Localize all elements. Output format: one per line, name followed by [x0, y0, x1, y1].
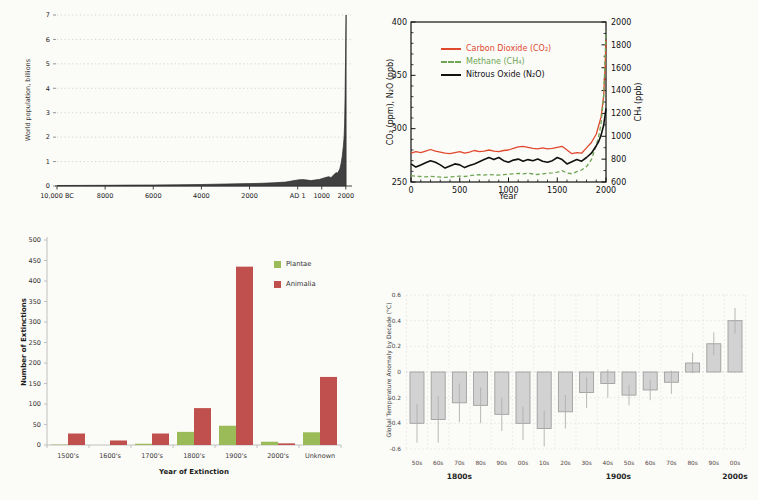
temperature-x-labels: 50s60s70s80s90s00s10s20s30s40s50s60s70s8…: [412, 460, 748, 481]
svg-text:00s: 00s: [730, 460, 740, 466]
svg-text:1000: 1000: [611, 132, 631, 141]
svg-text:800: 800: [611, 155, 626, 164]
population-axes: 0123456710,000 BC8000600040002000AD 1100…: [40, 11, 354, 200]
svg-text:400: 400: [29, 277, 41, 285]
temperature-y-axis-label: Global Temperature Anomaly by Decade (°C…: [385, 302, 392, 437]
svg-text:5: 5: [46, 60, 50, 68]
svg-text:1600: 1600: [611, 64, 631, 73]
svg-text:2000: 2000: [338, 192, 355, 200]
svg-text:2000's: 2000's: [267, 452, 289, 460]
svg-text:70s: 70s: [454, 460, 464, 466]
svg-text:0: 0: [37, 441, 41, 449]
svg-text:1800's: 1800's: [183, 452, 205, 460]
svg-text:8000: 8000: [97, 192, 114, 200]
svg-text:0: 0: [46, 182, 50, 190]
plantae-bar: [219, 426, 236, 445]
animalia-bar: [236, 267, 253, 445]
svg-text:2000: 2000: [596, 186, 616, 195]
svg-text:60s: 60s: [433, 460, 443, 466]
population-y-axis-label: World population, billions: [24, 59, 32, 141]
plantae-bar: [303, 432, 320, 445]
svg-text:300: 300: [29, 318, 41, 326]
svg-text:10s: 10s: [539, 460, 549, 466]
svg-text:0.4: 0.4: [392, 318, 402, 324]
svg-text:0: 0: [408, 186, 413, 195]
animalia-bar: [194, 408, 211, 445]
legend-item-animalia: Animalia: [274, 278, 316, 291]
legend-item-n2o: Nitrous Oxide (N₂O): [441, 68, 551, 81]
extinctions-y-axis-label: Number of Extinctions: [20, 298, 28, 386]
animalia-bar: [152, 434, 169, 445]
svg-text:2000s: 2000s: [722, 472, 748, 481]
greenhouse-left-y-axis-label: CO₂ (ppm), N₂O (ppb): [386, 59, 395, 145]
svg-text:2000: 2000: [241, 192, 258, 200]
greenhouse-right-y-axis-label: CH₄ (ppb): [634, 83, 643, 122]
svg-text:1500's: 1500's: [57, 452, 79, 460]
svg-text:250: 250: [392, 178, 407, 187]
figure-page: 0123456710,000 BC8000600040002000AD 1100…: [0, 0, 758, 500]
n2o-line-swatch: [441, 74, 461, 76]
legend-item-methane: Methane (CH₄): [441, 55, 551, 68]
svg-text:1800s: 1800s: [447, 472, 473, 481]
svg-text:3: 3: [46, 109, 50, 117]
legend-label-plantae: Plantae: [286, 261, 311, 268]
svg-text:4000: 4000: [193, 192, 210, 200]
svg-text:50s: 50s: [624, 460, 634, 466]
plantae-bar: [177, 432, 194, 445]
svg-text:7: 7: [46, 11, 50, 19]
svg-text:500: 500: [452, 186, 467, 195]
svg-text:2000: 2000: [611, 18, 631, 27]
temperature-anomaly-chart: 0.60.40.20-0.2-0.4-0.650s60s70s80s90s00s…: [379, 222, 758, 500]
svg-text:250: 250: [29, 339, 41, 347]
greenhouse-legend: Carbon Dioxide (CO₂) Methane (CH₄) Nitro…: [441, 42, 551, 81]
svg-text:20s: 20s: [560, 460, 570, 466]
svg-text:90s: 90s: [709, 460, 719, 466]
svg-text:50s: 50s: [412, 460, 422, 466]
svg-text:10,000 BC: 10,000 BC: [40, 192, 74, 200]
svg-text:1200: 1200: [611, 109, 631, 118]
svg-text:1: 1: [46, 158, 50, 166]
series-line: [411, 108, 606, 168]
greenhouse-gases-chart: 2503003504006008001000120014001600180020…: [379, 0, 758, 222]
world-population-plot: 0123456710,000 BC8000600040002000AD 1100…: [0, 0, 379, 222]
legend-label-co2: Carbon Dioxide (CO₂): [466, 45, 551, 53]
plantae-bar: [261, 442, 278, 445]
svg-text:6000: 6000: [145, 192, 162, 200]
temperature-anomaly-plot: 0.60.40.20-0.2-0.4-0.650s60s70s80s90s00s…: [379, 222, 758, 500]
extinctions-x-axis-label: Year of Extinction: [134, 468, 254, 476]
legend-label-animalia: Animalia: [286, 281, 316, 288]
animalia-bar: [110, 440, 127, 445]
plantae-swatch: [274, 261, 281, 268]
svg-text:6: 6: [46, 36, 50, 44]
svg-text:0: 0: [397, 369, 401, 375]
co2-line-swatch: [441, 48, 461, 50]
methane-line-swatch: [441, 61, 461, 63]
svg-text:1600's: 1600's: [99, 452, 121, 460]
svg-text:400: 400: [392, 18, 407, 27]
animalia-swatch: [274, 281, 281, 288]
world-population-chart: 0123456710,000 BC8000600040002000AD 1100…: [0, 0, 379, 222]
plantae-bar: [135, 444, 152, 445]
svg-text:350: 350: [29, 298, 41, 306]
greenhouse-gases-plot: 2503003504006008001000120014001600180020…: [379, 0, 758, 222]
svg-text:80s: 80s: [687, 460, 697, 466]
svg-text:1900's: 1900's: [225, 452, 247, 460]
svg-text:0.2: 0.2: [392, 343, 402, 349]
svg-text:70s: 70s: [666, 460, 676, 466]
svg-text:AD 1: AD 1: [290, 192, 306, 200]
extinctions-plot: 0501001502002503003504004505001500's1600…: [0, 222, 379, 500]
extinctions-legend: Plantae Animalia: [274, 258, 316, 291]
svg-text:80s: 80s: [475, 460, 485, 466]
svg-text:1900s: 1900s: [606, 472, 632, 481]
animalia-bar: [68, 434, 85, 445]
svg-text:500: 500: [29, 236, 41, 244]
svg-text:1500: 1500: [547, 186, 567, 195]
svg-text:40s: 40s: [603, 460, 613, 466]
svg-text:0.6: 0.6: [392, 292, 402, 298]
svg-text:90s: 90s: [497, 460, 507, 466]
svg-text:1700's: 1700's: [141, 452, 163, 460]
svg-text:00s: 00s: [518, 460, 528, 466]
animalia-bar: [278, 443, 295, 445]
svg-text:150: 150: [29, 380, 41, 388]
svg-text:1000: 1000: [313, 192, 330, 200]
